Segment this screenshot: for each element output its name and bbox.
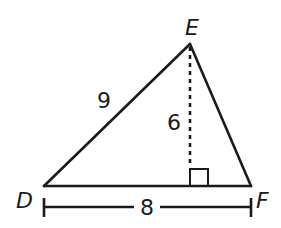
altitude-length-label: 6 [167, 110, 181, 135]
right-angle-marker [190, 169, 208, 186]
side-ef [190, 44, 251, 186]
vertex-label-f: F [256, 188, 269, 213]
side-de-length-label: 9 [97, 88, 111, 113]
base-length-label: 8 [140, 195, 154, 220]
vertex-label-e: E [185, 15, 199, 40]
vertex-label-d: D [16, 188, 33, 213]
triangle-diagram: E D F 9 6 8 [0, 0, 281, 228]
